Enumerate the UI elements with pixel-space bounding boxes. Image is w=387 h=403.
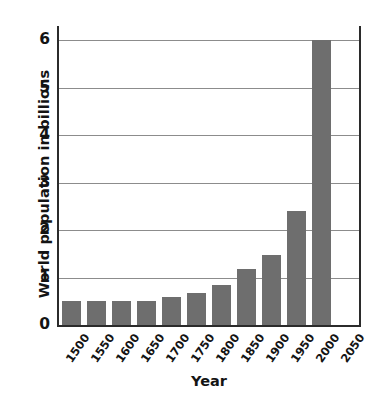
x-tick-label-1500: 1500 — [61, 331, 92, 367]
bar-1600 — [112, 301, 132, 325]
x-tick-label-1800: 1800 — [211, 331, 242, 367]
x-tick-label-2050: 2050 — [336, 331, 367, 367]
y-tick-label-0: 0 — [30, 317, 50, 333]
right-axis-line — [359, 26, 361, 327]
bar-1700 — [162, 297, 182, 325]
y-tick-label-4: 4 — [30, 127, 50, 143]
bar-chart: World population in billions 0123456 150… — [0, 0, 387, 403]
bar-1900 — [262, 255, 282, 325]
bar-1500 — [62, 301, 82, 325]
y-tick-label-3: 3 — [30, 175, 50, 191]
x-axis-title: Year — [57, 373, 361, 389]
x-axis-line — [57, 325, 361, 327]
x-tick-label-1750: 1750 — [186, 331, 217, 367]
bar-1650 — [137, 301, 157, 325]
bar-1850 — [237, 269, 257, 325]
x-tick-label-1850: 1850 — [236, 331, 267, 367]
x-tick-label-1900: 1900 — [261, 331, 292, 367]
x-tick-label-1950: 1950 — [286, 331, 317, 367]
y-tick-label-2: 2 — [30, 222, 50, 238]
x-tick-label-1600: 1600 — [111, 331, 142, 367]
x-tick-label-1700: 1700 — [161, 331, 192, 367]
x-tick-label-1550: 1550 — [86, 331, 117, 367]
y-tick-label-6: 6 — [30, 32, 50, 48]
bar-1750 — [187, 293, 207, 325]
x-tick-label-2000: 2000 — [311, 331, 342, 367]
bar-2000 — [312, 40, 332, 325]
bar-1550 — [87, 301, 107, 325]
y-tick-label-1: 1 — [30, 270, 50, 286]
bar-1800 — [212, 285, 232, 325]
plot-area — [57, 26, 361, 327]
y-tick-label-5: 5 — [30, 80, 50, 96]
x-tick-label-1650: 1650 — [136, 331, 167, 367]
bar-1950 — [287, 211, 307, 325]
bars-layer — [59, 26, 359, 325]
